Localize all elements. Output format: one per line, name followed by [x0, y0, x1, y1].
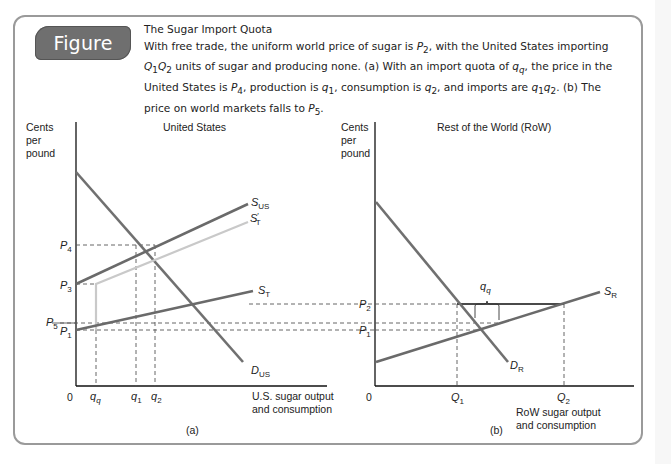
x-axis-label-a-line1: U.S. sugar output [252, 390, 334, 402]
label-s-t: ST [258, 284, 270, 299]
label-d-us: DUS [251, 364, 270, 379]
x-axis-label-b-line2: and consumption [516, 419, 596, 431]
panel-a-label: (a) [186, 424, 199, 436]
y-axis-label-cents-b: Cents [341, 121, 368, 133]
diagrams: Cents per pound United States SUS S′T ST… [0, 0, 671, 464]
label-qq: qq [90, 390, 101, 405]
label-p3: P3 [60, 279, 72, 294]
label-s-r: SR [604, 285, 617, 300]
x-axis-label-a-line2: and consumption [252, 403, 332, 415]
x-axis-label-b-line1: RoW sugar output [516, 406, 601, 418]
supply-row-curve [376, 292, 600, 362]
panel-b-title: Rest of the World (RoW) [437, 121, 551, 133]
label-Q1: Q1 [451, 391, 465, 406]
label-s-t-prime: S′T [250, 211, 261, 227]
demand-row-curve [376, 202, 508, 362]
y-axis-label-pound: pound [26, 147, 55, 159]
label-d-r: DR [510, 359, 524, 374]
guide-lines [60, 245, 375, 386]
panel-a-united-states: Cents per pound United States SUS S′T ST… [26, 121, 375, 436]
label-p5: P5 [46, 316, 58, 331]
panel-a-title: United States [163, 121, 226, 133]
panel-b-rest-of-world: Cents per pound Rest of the World (RoW) … [341, 121, 634, 436]
origin-a: 0 [67, 391, 73, 403]
y-axis-label-per: per [26, 134, 42, 146]
label-p4: P4 [60, 239, 72, 254]
label-p1-b: P1 [359, 324, 371, 339]
total-supply-curve [76, 291, 253, 330]
label-q1: q1 [131, 390, 142, 405]
origin-b: 0 [366, 391, 372, 403]
label-q2: q2 [151, 390, 162, 405]
demand-us-curve [76, 172, 243, 362]
label-p1: P1 [60, 325, 72, 340]
label-Q2: Q2 [557, 391, 571, 406]
y-axis-label-cents: Cents [26, 121, 53, 133]
y-axis-label-per-b: per [341, 134, 357, 146]
label-p2-b: P2 [359, 298, 371, 313]
y-axis-label-pound-b: pound [341, 147, 370, 159]
label-s-us: SUS [251, 196, 269, 211]
supply-us-curve [76, 204, 248, 284]
panel-b-label: (b) [490, 424, 503, 436]
label-qq-b: qq [480, 280, 491, 295]
